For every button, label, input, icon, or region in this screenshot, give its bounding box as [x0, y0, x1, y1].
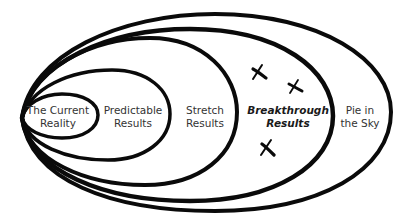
- x-mark-icon: [258, 137, 278, 157]
- label-line: Results: [247, 117, 329, 130]
- label-pie-in-the-sky: Pie in the Sky: [340, 104, 379, 130]
- nested-ellipse-diagram: The Current Reality Predictable Results …: [0, 0, 409, 220]
- label-current-reality: The Current Reality: [27, 104, 89, 130]
- label-line: The Current: [27, 104, 89, 117]
- label-line: Predictable: [104, 104, 163, 117]
- label-line: Stretch: [186, 104, 224, 117]
- x-mark-icon: [249, 62, 269, 82]
- label-line: Reality: [27, 117, 89, 130]
- label-stretch-results: Stretch Results: [186, 104, 224, 130]
- label-line: Breakthrough: [247, 104, 329, 117]
- label-line: Results: [104, 117, 163, 130]
- label-predictable-results: Predictable Results: [104, 104, 163, 130]
- label-line: the Sky: [340, 117, 379, 130]
- label-line: Results: [186, 117, 224, 130]
- x-mark-icon: [285, 76, 305, 96]
- label-line: Pie in: [340, 104, 379, 117]
- label-breakthrough-results: Breakthrough Results: [247, 104, 329, 130]
